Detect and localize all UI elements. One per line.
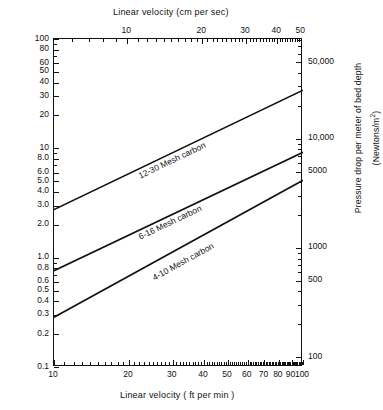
axis-tick-label: 0.3 [37,309,49,318]
axis-tick-label: 50 [40,66,49,75]
axis-tick-label: 80 [40,44,49,53]
series-line [54,180,303,317]
axis-tick-label: 50 [222,370,231,379]
axis-tick-label: 0.1 [37,362,49,371]
axis-tick-label: 60 [242,370,251,379]
axis-tick-label: 10,000 [308,133,334,142]
axis-tick-label: 70 [259,370,268,379]
axis-tick-label: 2.0 [37,219,49,228]
axis-tick-label: 1.0 [37,252,49,261]
axis-tick-label: 10 [122,26,131,35]
axis-tick-label: 100 [35,34,49,43]
axis-tick-label: 20 [40,110,49,119]
axis-tick-label: 40 [271,26,280,35]
right-axis-title-tail: ) [371,111,381,114]
axis-tick-label: 10 [40,143,49,152]
plot-area: 12-30 Mesh carbon6-16 Mesh carbon4-10 Me… [53,38,302,366]
axis-tick-label: 40 [198,370,207,379]
axis-tick-label: 50 [296,26,305,35]
axis-tick-label: 20 [196,26,205,35]
axis-tick-label: 90 [286,370,295,379]
axis-tick-label: 30 [167,370,176,379]
axis-tick-label: 0.5 [37,285,49,294]
axis-tick-label: 100 [295,370,309,379]
axis-tick-label: 0.8 [37,263,49,272]
axis-tick-label: 500 [308,275,322,284]
right-axis-title-exponent: 2 [369,114,376,118]
series-line [54,90,303,209]
axis-tick-label: 4.0 [37,186,49,195]
axis-tick [54,367,59,368]
right-axis-title-wrap: Pressure drop per meter of bed depth (Ne… [347,38,383,238]
data-lines [54,39,303,367]
axis-tick-label: 0.4 [37,296,49,305]
axis-tick-label: 5000 [308,166,327,175]
axis-tick-label: 1000 [308,242,327,251]
axis-tick-label: 8.0 [37,153,49,162]
axis-tick-label: 30 [240,26,249,35]
axis-tick-label: 100 [308,352,322,361]
axis-tick-label: 5.0 [37,176,49,185]
axis-tick-label: 30 [40,91,49,100]
top-axis-title: Linear velocity (cm per sec) [113,8,229,17]
axis-tick-label: 3.0 [37,200,49,209]
bottom-axis-title: Linear velocity ( ft per min ) [120,391,235,400]
axis-tick-label: 0.2 [37,329,49,338]
right-axis-title-main: Pressure drop per meter of bed depth (Ne… [353,63,381,214]
axis-tick-label: 40 [40,77,49,86]
right-axis-title: Pressure drop per meter of bed depth (Ne… [353,63,381,214]
axis-tick-label: 10 [48,370,57,379]
axis-tick-label: 80 [273,370,282,379]
axis-tick-label: 50,000 [308,57,334,66]
axis-tick-label: 20 [123,370,132,379]
axis-tick [303,360,304,365]
